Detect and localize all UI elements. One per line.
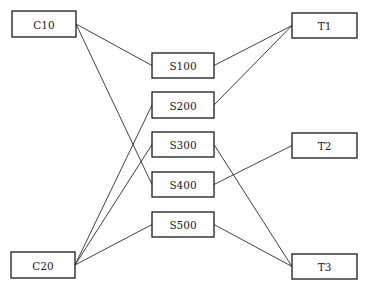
node-s200: S200 xyxy=(152,92,214,118)
edge-c10-s100 xyxy=(76,24,152,66)
node-label: C10 xyxy=(33,19,54,31)
node-label: T3 xyxy=(318,261,332,273)
node-label: C20 xyxy=(32,260,53,272)
node-c20: C20 xyxy=(11,252,75,278)
node-label: S400 xyxy=(169,179,196,191)
edge-s200-t1 xyxy=(214,26,292,106)
edge-c20-s300 xyxy=(75,145,152,266)
diagram-canvas: C10C20S100S200S300S400S500T1T2T3 xyxy=(0,0,371,293)
edge-c20-s200 xyxy=(75,105,152,265)
node-label: T1 xyxy=(318,20,332,32)
node-label: S100 xyxy=(169,60,196,72)
node-c10: C10 xyxy=(12,11,76,37)
node-t2: T2 xyxy=(292,133,357,158)
edge-s500-t3 xyxy=(214,225,292,267)
node-label: S200 xyxy=(169,100,196,112)
edge-s300-t3 xyxy=(214,145,292,267)
node-t3: T3 xyxy=(292,254,357,279)
node-s100: S100 xyxy=(152,53,214,78)
node-s500: S500 xyxy=(152,212,214,237)
nodes-layer: C10C20S100S200S300S400S500T1T2T3 xyxy=(11,11,357,279)
node-label: T2 xyxy=(318,140,332,152)
node-t1: T1 xyxy=(292,13,357,38)
node-label: S500 xyxy=(169,219,196,231)
edge-s400-t2 xyxy=(214,146,292,185)
node-label: S300 xyxy=(169,139,196,151)
edge-s100-t1 xyxy=(214,26,292,66)
edge-c20-s500 xyxy=(75,225,152,266)
edge-c10-s400 xyxy=(76,24,152,185)
node-s300: S300 xyxy=(152,132,214,157)
node-s400: S400 xyxy=(152,172,214,197)
